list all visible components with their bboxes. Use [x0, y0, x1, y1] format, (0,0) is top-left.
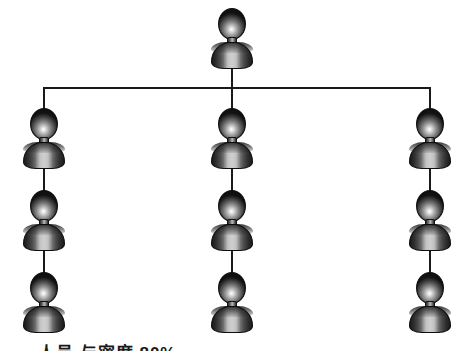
person-icon-left-3[interactable] — [22, 272, 66, 334]
person-body — [23, 306, 65, 333]
person-icon-center-2[interactable] — [210, 190, 254, 252]
person-body — [409, 306, 451, 333]
person-body — [211, 142, 253, 169]
person-head — [218, 272, 246, 304]
person-head — [416, 272, 444, 304]
person-head — [416, 190, 444, 222]
connector-horizontal-bus — [43, 87, 431, 89]
person-body — [23, 224, 65, 251]
person-head — [30, 272, 58, 304]
caption-text-clipped: 人员 与密度 80% — [0, 343, 461, 351]
person-body — [409, 142, 451, 169]
caption-label: 人员 与密度 80% — [38, 344, 176, 351]
person-body — [211, 306, 253, 333]
person-icon-left-2[interactable] — [22, 190, 66, 252]
person-head — [30, 108, 58, 140]
person-icon-right-3[interactable] — [408, 272, 452, 334]
person-body — [23, 142, 65, 169]
person-head — [218, 8, 246, 40]
person-icon-root[interactable] — [210, 8, 254, 70]
person-icon-center-3[interactable] — [210, 272, 254, 334]
person-head — [30, 190, 58, 222]
person-icon-right-2[interactable] — [408, 190, 452, 252]
person-head — [218, 108, 246, 140]
person-icon-right-1[interactable] — [408, 108, 452, 170]
person-body — [409, 224, 451, 251]
person-body — [211, 42, 253, 69]
person-icon-center-1[interactable] — [210, 108, 254, 170]
org-chart-canvas: 人员 与密度 80% — [0, 0, 461, 351]
person-body — [211, 224, 253, 251]
person-head — [416, 108, 444, 140]
person-icon-left-1[interactable] — [22, 108, 66, 170]
person-head — [218, 190, 246, 222]
